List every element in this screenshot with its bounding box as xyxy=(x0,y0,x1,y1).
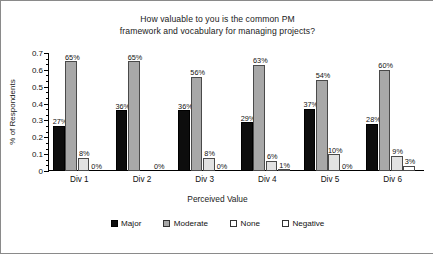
bar-value-label: 0% xyxy=(91,162,102,171)
y-tick-label: 0 xyxy=(39,167,43,176)
y-tick-major xyxy=(44,171,49,172)
chart-title-line-2: framework and vocabulary for managing pr… xyxy=(1,26,433,38)
bar-moderate: 65% xyxy=(65,61,77,171)
bar-major: 37% xyxy=(304,109,316,171)
bar-value-label: 56% xyxy=(190,68,205,77)
chart-legend: MajorModerateNoneNegative xyxy=(1,219,433,228)
bar-group: 36%65%0%Div 2 xyxy=(111,53,174,171)
bar-major: 28% xyxy=(366,124,378,171)
y-tick-label: 0.3 xyxy=(32,116,43,125)
chart-title-line-1: How valuable to you is the common PM xyxy=(1,14,433,26)
bar-group: 37%54%10%0%Div 5 xyxy=(299,53,362,171)
bar-none: 6% xyxy=(266,161,278,171)
legend-swatch-icon xyxy=(230,220,237,227)
bar-major: 29% xyxy=(241,122,253,171)
legend-item-none[interactable]: None xyxy=(230,219,260,228)
bar-major: 36% xyxy=(178,110,190,171)
chart-title: How valuable to you is the common PM fra… xyxy=(1,14,433,37)
legend-label: None xyxy=(241,219,260,228)
y-tick-label: 0.1 xyxy=(32,150,43,159)
bar-moderate: 60% xyxy=(379,70,391,171)
legend-item-moderate[interactable]: Moderate xyxy=(163,219,208,228)
legend-label: Major xyxy=(121,219,141,228)
bar-value-label: 3% xyxy=(405,157,416,166)
bar-value-label: 63% xyxy=(253,56,268,65)
x-tick-label: Div 3 xyxy=(173,175,236,184)
bar-group: 36%56%8%0%Div 3 xyxy=(173,53,236,171)
bar-value-label: 54% xyxy=(316,71,331,80)
x-tick-label: Div 4 xyxy=(236,175,299,184)
bar-group: 29%63%6%1%Div 4 xyxy=(236,53,299,171)
y-axis-title: % of Respondents xyxy=(8,0,20,53)
bar-negative: 1% xyxy=(278,169,290,171)
y-tick-label: 0.2 xyxy=(32,133,43,142)
legend-swatch-icon xyxy=(163,220,170,227)
x-axis-title: Perceived Value xyxy=(1,194,433,204)
bar-moderate: 56% xyxy=(191,77,203,171)
bar-value-label: 10% xyxy=(328,146,343,155)
bar-none: 8% xyxy=(203,158,215,171)
bar-group: 28%60%9%3%Div 6 xyxy=(361,53,424,171)
bar-value-label: 8% xyxy=(79,149,90,158)
bar-value-label: 6% xyxy=(267,152,278,161)
bar-negative: 3% xyxy=(403,166,415,171)
bar-value-label: 60% xyxy=(378,61,393,70)
bar-value-label: 0% xyxy=(342,162,353,171)
bar-moderate: 54% xyxy=(316,80,328,171)
plot-area: 00.10.20.30.40.50.60.7 27%65%8%0%Div 136… xyxy=(48,53,424,171)
bar-none: 8% xyxy=(78,158,90,171)
bar-moderate: 65% xyxy=(128,61,140,171)
bar-value-label: 1% xyxy=(279,161,290,170)
bar-none: 10% xyxy=(328,154,340,171)
y-tick-label: 0.7 xyxy=(32,49,43,58)
bar-major: 36% xyxy=(116,110,128,171)
y-tick-label: 0.5 xyxy=(32,82,43,91)
legend-label: Negative xyxy=(292,219,324,228)
legend-swatch-icon xyxy=(111,220,118,227)
legend-label: Moderate xyxy=(174,219,208,228)
x-tick-label: Div 5 xyxy=(299,175,362,184)
legend-item-major[interactable]: Major xyxy=(111,219,142,228)
bar-value-label: 9% xyxy=(392,147,403,156)
bar-value-label: 0% xyxy=(217,162,228,171)
bar-value-label: 8% xyxy=(204,149,215,158)
y-tick-label: 0.4 xyxy=(32,99,43,108)
y-axis-title-text: % of Respondents xyxy=(8,53,17,171)
bar-value-label: 65% xyxy=(128,53,143,62)
bar-moderate: 63% xyxy=(253,65,265,171)
bar-value-label: 65% xyxy=(65,53,80,62)
bar-major: 27% xyxy=(53,126,65,172)
bar-group: 27%65%8%0%Div 1 xyxy=(48,53,111,171)
x-tick-label: Div 6 xyxy=(361,175,424,184)
legend-item-negative[interactable]: Negative xyxy=(282,219,324,228)
legend-swatch-icon xyxy=(282,220,289,227)
bar-value-label: 0% xyxy=(154,162,165,171)
chart-frame: How valuable to you is the common PM fra… xyxy=(0,0,433,254)
bar-none: 9% xyxy=(391,156,403,171)
x-tick-label: Div 2 xyxy=(111,175,174,184)
y-tick-label: 0.6 xyxy=(32,65,43,74)
x-tick-label: Div 1 xyxy=(48,175,111,184)
